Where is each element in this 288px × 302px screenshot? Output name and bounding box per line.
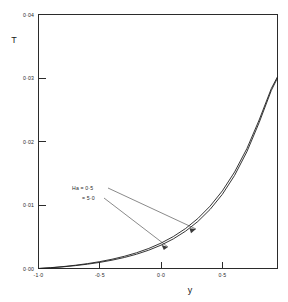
x-axis-ticks xyxy=(39,262,223,269)
y-tick-label-1: 0·01 xyxy=(23,202,34,208)
annotation-label-ha-5-0: = 5·0 xyxy=(82,195,95,201)
annotation-leaders xyxy=(104,188,196,250)
x-tick-labels: -1·0 -0·5 0·0 0·5 xyxy=(34,272,227,278)
x-tick-label-1: -0·5 xyxy=(95,272,105,278)
y-tick-label-3: 0·03 xyxy=(23,75,34,81)
y-tick-label-4: 0·04 xyxy=(23,12,34,18)
x-tick-label-2: 0·0 xyxy=(157,272,165,278)
curve-ha-0-5 xyxy=(39,77,278,269)
leader-line-lower xyxy=(104,198,168,247)
y-tick-label-2: 0·02 xyxy=(23,139,34,145)
leader-line-upper xyxy=(108,188,196,229)
x-tick-label-3: 0·5 xyxy=(218,272,226,278)
y-axis-title: T xyxy=(11,35,17,45)
leader-arrow-lower xyxy=(162,245,168,250)
y-axis-ticks xyxy=(39,15,46,269)
y-tick-label-0: 0·00 xyxy=(23,266,34,272)
x-axis-title: y xyxy=(188,285,193,295)
plot-frame xyxy=(39,15,278,269)
annotation-label-ha-0-5: Ha = 0·5 xyxy=(72,185,93,191)
y-tick-labels: 0·00 0·01 0·02 0·03 0·04 xyxy=(23,12,34,272)
curve-ha-5-0 xyxy=(39,78,278,269)
chart-plot: 0·00 0·01 0·02 0·03 0·04 -1·0 -0·5 0·0 0… xyxy=(0,0,288,302)
x-tick-label-0: -1·0 xyxy=(34,272,44,278)
leader-arrow-upper xyxy=(190,228,197,233)
figure-container: 0·00 0·01 0·02 0·03 0·04 -1·0 -0·5 0·0 0… xyxy=(0,0,288,302)
data-curves xyxy=(39,77,278,269)
